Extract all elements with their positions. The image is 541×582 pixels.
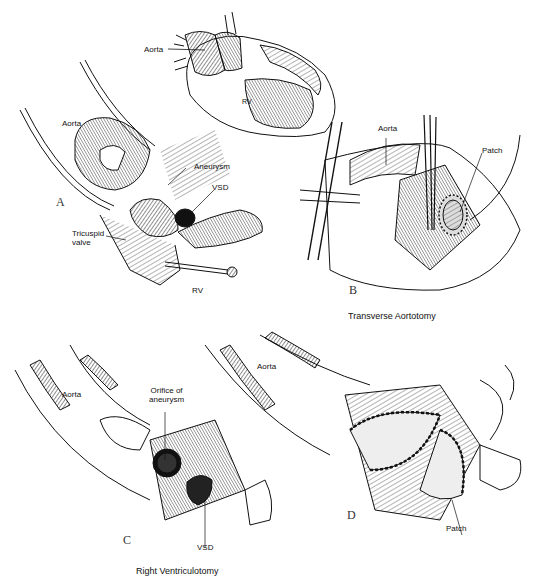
panel-letter-c: C — [123, 533, 131, 548]
label-a-aorta: Aorta — [62, 119, 81, 128]
heart-inset-drawing — [168, 12, 335, 137]
label-d-aorta: Aorta — [257, 362, 276, 371]
label-a-aneurysm: Aneurysm — [194, 162, 230, 171]
label-a-tricuspid-valve: Tricuspid valve — [72, 229, 104, 247]
panel-c-drawing — [15, 345, 272, 548]
label-c-orifice-of-aneurysm: Orifice of aneurysm — [149, 386, 184, 404]
panel-b-drawing — [300, 115, 520, 290]
label-d-patch: Patch — [446, 524, 466, 533]
label-a-vsd: VSD — [212, 183, 228, 192]
panel-letter-a: A — [56, 195, 65, 210]
panel-letter-b: B — [349, 283, 357, 298]
label-c-orifice-line2: aneurysm — [149, 395, 184, 404]
label-inset-rv: RV — [242, 97, 252, 106]
label-c-aorta: Aorta — [62, 390, 81, 399]
label-b-aorta: Aorta — [378, 124, 397, 133]
label-a-tricuspid-line2: valve — [72, 238, 104, 247]
caption-right-ventriculotomy: Right Ventriculotomy — [136, 566, 219, 576]
label-a-tricuspid-line1: Tricuspid — [72, 229, 104, 238]
label-c-vsd: VSD — [197, 543, 213, 552]
surgical-illustration — [0, 0, 541, 582]
caption-transverse-aortotomy: Transverse Aortotomy — [348, 311, 436, 321]
label-a-rv: RV — [192, 286, 203, 295]
label-inset-aorta: Aorta — [144, 45, 163, 54]
label-c-orifice-line1: Orifice of — [149, 386, 184, 395]
panel-letter-d: D — [347, 508, 356, 523]
label-b-patch: Patch — [482, 146, 502, 155]
